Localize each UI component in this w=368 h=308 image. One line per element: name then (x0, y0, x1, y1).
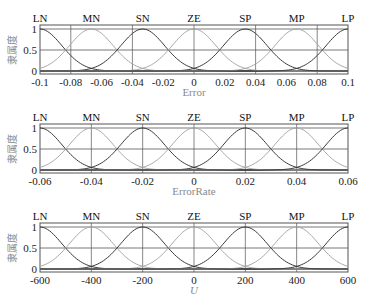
x-tick-label: -200 (133, 274, 154, 286)
x-tick-label: 600 (340, 274, 357, 286)
mf-label-lp: LP (342, 210, 355, 222)
x-tick-label: -0.06 (29, 175, 52, 187)
mf-label-sn: SN (136, 12, 150, 24)
x-tick-label: -0.02 (152, 76, 175, 88)
membership-function-charts: -0.1-0.08-0.06-0.04-0.0200.020.040.060.0… (0, 0, 368, 308)
x-axis-label: Error (182, 86, 206, 98)
mf-label-ln: LN (33, 12, 48, 24)
mf-label-lp: LP (342, 111, 355, 123)
mf-label-sp: SP (239, 210, 251, 222)
x-tick-label: 0.02 (236, 175, 255, 187)
mf-label-sn: SN (136, 111, 150, 123)
x-tick-label: 0.08 (308, 76, 328, 88)
y-tick-label: 0.5 (23, 44, 37, 56)
y-tick-label: 0 (32, 263, 38, 275)
x-tick-label: 200 (237, 274, 254, 286)
x-tick-label: -0.08 (59, 76, 82, 88)
mf-label-mp: MP (289, 12, 305, 24)
x-tick-label: -0.02 (131, 175, 154, 187)
y-tick-label: 0 (32, 65, 38, 77)
x-tick-label: 0.06 (277, 76, 297, 88)
mf-label-sp: SP (239, 12, 251, 24)
y-tick-label: 1 (32, 23, 38, 35)
y-axis-label: 隶属度 (6, 134, 18, 164)
x-tick-label: -0.04 (80, 175, 103, 187)
x-tick-label: 0.04 (246, 76, 266, 88)
mf-label-ln: LN (33, 111, 48, 123)
chart-panel-1: -0.1-0.08-0.06-0.04-0.0200.020.040.060.0… (6, 12, 355, 98)
y-tick-label: 0.5 (23, 143, 37, 155)
mf-label-mp: MP (289, 111, 305, 123)
y-tick-label: 1 (32, 122, 38, 134)
chart-panel-3: -600-400-200020040060010.50隶属度ULNMNSNZES… (6, 210, 357, 296)
mf-label-lp: LP (342, 12, 355, 24)
mf-label-ze: ZE (187, 12, 201, 24)
mf-label-mn: MN (82, 210, 100, 222)
x-tick-label: -0.06 (90, 76, 113, 88)
y-tick-label: 0 (32, 164, 38, 176)
mf-label-ln: LN (33, 210, 48, 222)
chart-panel-2: -0.06-0.04-0.0200.020.040.0610.50隶属度Erro… (6, 111, 358, 197)
x-tick-label: -0.04 (121, 76, 144, 88)
x-axis-label: ErrorRate (172, 185, 215, 197)
y-tick-label: 0.5 (23, 242, 37, 254)
y-tick-label: 1 (32, 221, 38, 233)
x-tick-label: 0.04 (287, 175, 307, 187)
mf-label-sp: SP (239, 111, 251, 123)
mf-label-mn: MN (82, 111, 100, 123)
y-axis-label: 隶属度 (6, 35, 18, 65)
x-tick-label: 0.1 (341, 76, 355, 88)
mf-label-mp: MP (289, 210, 305, 222)
x-tick-label: 400 (288, 274, 305, 286)
y-axis-label: 隶属度 (6, 233, 18, 263)
mf-label-ze: ZE (187, 111, 201, 123)
x-tick-label: -400 (81, 274, 102, 286)
mf-label-sn: SN (136, 210, 150, 222)
x-tick-label: -600 (30, 274, 51, 286)
mf-label-mn: MN (82, 12, 100, 24)
x-tick-label: -0.1 (31, 76, 48, 88)
mf-label-ze: ZE (187, 210, 201, 222)
x-tick-label: 0.06 (338, 175, 358, 187)
x-axis-label: U (190, 284, 199, 296)
x-tick-label: 0.02 (215, 76, 234, 88)
